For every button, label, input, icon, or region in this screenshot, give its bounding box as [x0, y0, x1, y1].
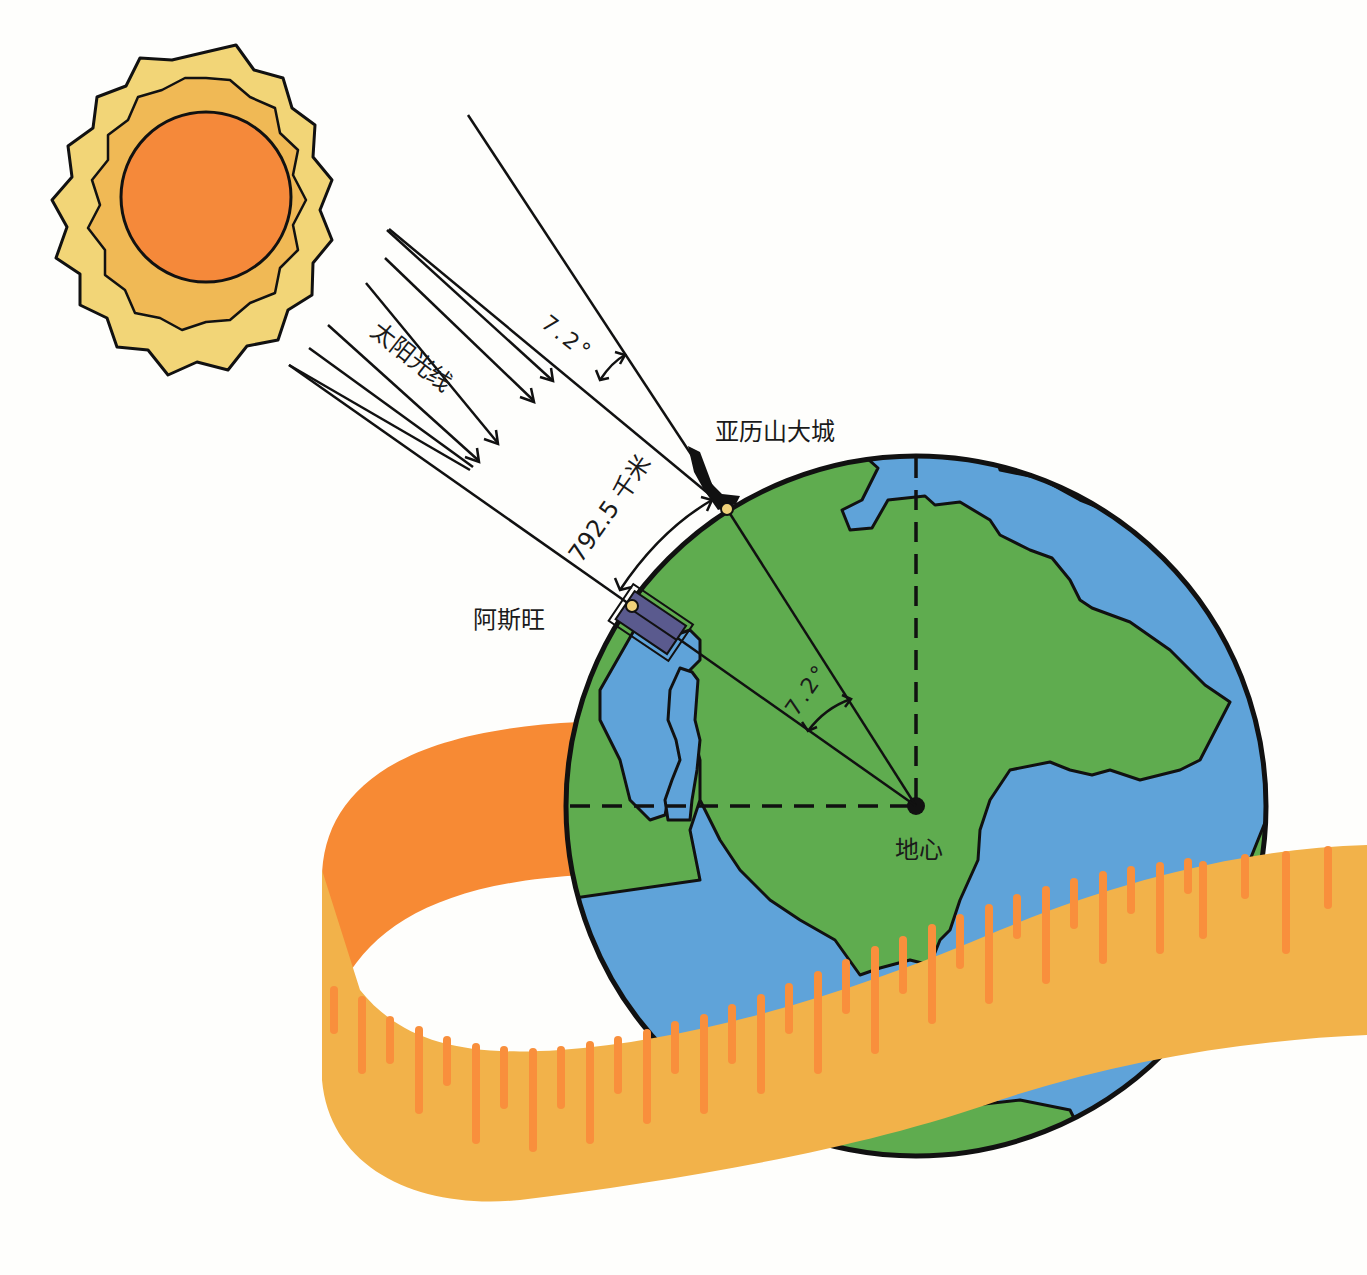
- syene-label: 阿斯旺: [473, 600, 545, 635]
- sun-rays: [289, 115, 727, 606]
- alexandria-gnomon: [688, 446, 740, 510]
- top-angle-arc: [596, 352, 625, 380]
- gnomon-line: [468, 115, 727, 509]
- alexandria-marker: [721, 503, 733, 515]
- ray-to-syene: [289, 365, 632, 606]
- eratosthenes-diagram: [0, 0, 1367, 1275]
- syene-marker: [626, 600, 638, 612]
- alexandria-label: 亚历山大城: [715, 412, 835, 447]
- earth-center-label: 地心: [895, 830, 943, 865]
- sun-icon: [52, 45, 332, 375]
